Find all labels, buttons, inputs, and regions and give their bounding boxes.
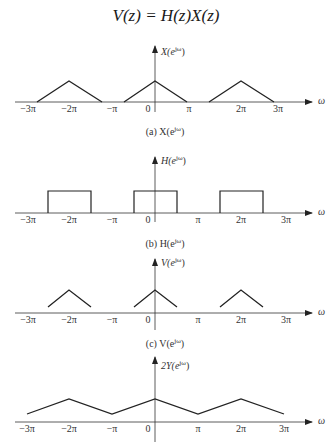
svg-text:−π: −π (107, 314, 118, 325)
zigzag-spectrum (27, 399, 284, 414)
svg-text:0: 0 (146, 214, 151, 225)
truncated-triangle-2pi (220, 290, 263, 307)
svg-text:−π: −π (107, 103, 118, 114)
svg-text:−2π: −2π (61, 314, 77, 325)
triangle-2pi (209, 81, 274, 102)
triangle-0 (124, 81, 187, 102)
y-axis-label: H(ejω) (160, 154, 186, 167)
y-axis-label: V(ejω) (161, 256, 185, 269)
rect-minus-2pi (48, 191, 91, 213)
svg-text:−3π: −3π (20, 103, 36, 114)
svg-text:3π: 3π (281, 214, 291, 225)
caption-b: (b) H(ejω) (145, 237, 184, 250)
tick-labels: −3π −2π −π 0 π 2π 3π (20, 314, 291, 325)
tick-labels: −3π −2π −π 0 π 2π 3π (20, 214, 291, 225)
svg-text:2π: 2π (236, 423, 246, 434)
truncated-triangle-minus-2pi (48, 290, 91, 307)
rect-0 (134, 191, 177, 213)
y-axis-label: X(ejω) (160, 45, 185, 58)
svg-text:π: π (195, 314, 200, 325)
tick-labels: −3π −2π −π 0 π 2π 3π (20, 103, 283, 114)
svg-text:π: π (195, 423, 200, 434)
svg-text:0: 0 (146, 314, 151, 325)
svg-text:−π: −π (107, 214, 118, 225)
svg-text:−π: −π (107, 423, 118, 434)
svg-text:−3π: −3π (20, 314, 36, 325)
panel-b: H(ejω) ω −3π −2π −π 0 π 2π 3π (b) H(ejω) (15, 154, 325, 250)
svg-text:−3π: −3π (20, 214, 36, 225)
svg-text:3π: 3π (279, 423, 289, 434)
svg-text:3π: 3π (281, 314, 291, 325)
svg-text:−2π: −2π (61, 423, 77, 434)
x-axis-label: ω (318, 306, 325, 317)
panel-a: X(ejω) ω −3π −2π −π 0 π 2π 3π (a) X(ejω) (15, 45, 325, 138)
svg-text:2π: 2π (236, 214, 246, 225)
tick-labels: −3π −2π −π 0 π 2π 3π (19, 423, 289, 434)
svg-text:−2π: −2π (61, 103, 77, 114)
truncated-triangle-0 (134, 290, 177, 307)
svg-text:2π: 2π (236, 103, 246, 114)
svg-text:−3π: −3π (19, 423, 35, 434)
panel-d: 2Y(ejω) ω −3π −2π −π 0 π 2π 3π (15, 357, 325, 442)
panel-c: V(ejω) ω −3π −2π −π 0 π 2π 3π (c) V(ejω) (15, 256, 325, 350)
triangle-minus-2pi (37, 81, 102, 102)
caption-a: (a) X(ejω) (146, 125, 185, 138)
figure: X(ejω) ω −3π −2π −π 0 π 2π 3π (a) X(ejω)… (0, 0, 332, 448)
y-axis-label: 2Y(ejω) (161, 359, 189, 372)
svg-text:−2π: −2π (61, 214, 77, 225)
svg-text:0: 0 (146, 103, 151, 114)
x-axis-label: ω (318, 95, 325, 106)
svg-text:π: π (186, 103, 191, 114)
svg-text:π: π (195, 214, 200, 225)
svg-text:3π: 3π (273, 103, 283, 114)
svg-text:2π: 2π (236, 314, 246, 325)
x-axis-label: ω (318, 206, 325, 217)
svg-text:0: 0 (146, 423, 151, 434)
rect-2pi (220, 191, 263, 213)
caption-c: (c) V(ejω) (146, 337, 184, 350)
x-axis-label: ω (318, 415, 325, 426)
